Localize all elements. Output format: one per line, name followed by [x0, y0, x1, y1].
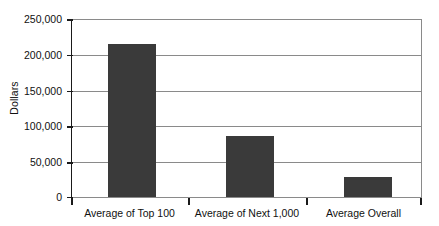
bar-average-overall — [344, 177, 392, 197]
x-axis-label-3: Average Overall — [306, 207, 421, 219]
y-tick-100000 — [67, 126, 73, 128]
y-tick-200000 — [67, 55, 73, 57]
y-axis-label-250000: 250,000 — [0, 13, 62, 25]
bar-average-of-next-1000 — [226, 136, 274, 196]
y-axis-label-0: 0 — [0, 191, 62, 203]
y-axis-label-50000: 50,000 — [0, 156, 62, 168]
y-axis-label-100000: 100,000 — [0, 120, 62, 132]
x-tick-2 — [306, 198, 308, 205]
x-axis-cap-left — [71, 198, 73, 205]
gridline-250000 — [72, 19, 422, 20]
x-tick-1 — [188, 198, 190, 205]
y-tick-250000 — [67, 19, 73, 21]
y-axis-label-150000: 150,000 — [0, 85, 62, 97]
bar-chart: Dollars 250,000 200,000 150,000 100,000 … — [0, 0, 439, 226]
y-tick-150000 — [67, 91, 73, 93]
x-axis-label-2: Average of Next 1,000 — [188, 207, 306, 219]
bar-average-of-top-100 — [108, 44, 156, 197]
x-axis-cap-right — [420, 198, 422, 205]
y-axis-label-200000: 200,000 — [0, 49, 62, 61]
plot-area — [71, 19, 422, 198]
y-axis-title: Dollars — [8, 68, 20, 128]
x-axis-label-1: Average of Top 100 — [71, 207, 188, 219]
plot-right-edge — [421, 19, 422, 198]
x-axis: Average of Top 100 Average of Next 1,000… — [71, 198, 422, 226]
y-tick-50000 — [67, 162, 73, 164]
